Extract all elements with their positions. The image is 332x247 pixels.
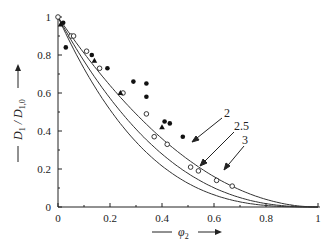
tick-labels: 00.20.40.60.8100.20.40.60.81 bbox=[37, 11, 321, 224]
curve-n-2 bbox=[58, 17, 318, 207]
curve-label-2: 2 bbox=[224, 106, 230, 120]
open-circle-point bbox=[188, 165, 193, 170]
svg-text:D1 / D1,0: D1 / D1,0 bbox=[11, 99, 27, 141]
y-tick-label: 0 bbox=[46, 201, 52, 213]
open-circle-point bbox=[84, 49, 89, 54]
open-circle-point bbox=[71, 34, 76, 39]
open-circle-point bbox=[152, 134, 157, 139]
x-tick-label: 0.2 bbox=[103, 212, 117, 224]
filled-triangle-point bbox=[159, 124, 165, 129]
data-points bbox=[56, 15, 235, 189]
filled-circle-point bbox=[105, 66, 110, 71]
filled-triangle-point bbox=[92, 58, 98, 63]
x-tick-label: 0.8 bbox=[259, 212, 273, 224]
filled-circle-point bbox=[144, 95, 149, 100]
open-circle-point bbox=[214, 178, 219, 183]
x-tick-label: 0 bbox=[55, 212, 61, 224]
open-circle-point bbox=[196, 169, 201, 174]
y-tick-label: 0.6 bbox=[37, 87, 51, 99]
chart: 00.20.40.60.8100.20.40.60.81 2 2.5 3 φ2 … bbox=[0, 0, 332, 247]
x-tick-label: 0.6 bbox=[207, 212, 221, 224]
axes bbox=[58, 15, 320, 207]
svg-text:φ2: φ2 bbox=[178, 225, 189, 241]
x-label-sub: 2 bbox=[185, 232, 189, 241]
filled-circle-point bbox=[162, 119, 167, 124]
filled-circle-point bbox=[64, 45, 69, 50]
filled-circle-point bbox=[144, 81, 149, 86]
y-tick-label: 1 bbox=[46, 11, 52, 23]
open-circle-point bbox=[97, 66, 102, 71]
open-circle-point bbox=[56, 15, 61, 20]
x-tick-label: 1 bbox=[315, 212, 321, 224]
open-circle-point bbox=[144, 112, 149, 117]
filled-circle-point bbox=[168, 121, 173, 126]
x-tick-label: 0.4 bbox=[155, 212, 169, 224]
y-tick-label: 0.2 bbox=[37, 163, 51, 175]
curve-n-3 bbox=[58, 17, 318, 207]
x-axis-label: φ2 bbox=[152, 225, 222, 241]
y-tick-label: 0.4 bbox=[37, 125, 51, 137]
ticks bbox=[58, 17, 318, 207]
curve-n-2.5 bbox=[58, 17, 318, 207]
filled-circle-point bbox=[131, 79, 136, 84]
open-circle-point bbox=[165, 142, 170, 147]
curve-label-2-5: 2.5 bbox=[234, 119, 249, 133]
y-tick-label: 0.8 bbox=[37, 49, 51, 61]
y-axis-label: D1 / D1,0 bbox=[11, 64, 27, 162]
curve-label-3: 3 bbox=[242, 133, 248, 147]
open-circle-point bbox=[230, 184, 235, 189]
theory-curves bbox=[58, 17, 318, 207]
filled-circle-point bbox=[181, 134, 186, 139]
filled-circle-point bbox=[90, 53, 95, 58]
